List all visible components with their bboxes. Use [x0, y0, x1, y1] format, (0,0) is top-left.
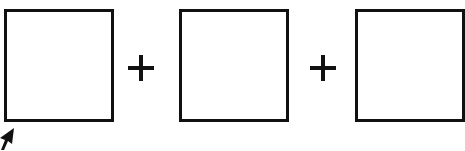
- plus-icon-1: [128, 55, 154, 81]
- box-2: [179, 9, 289, 122]
- arrow-pointer-icon: [0, 128, 14, 150]
- box-3: [355, 9, 465, 122]
- plus-icon-2: [310, 55, 336, 81]
- box-1: [4, 9, 114, 122]
